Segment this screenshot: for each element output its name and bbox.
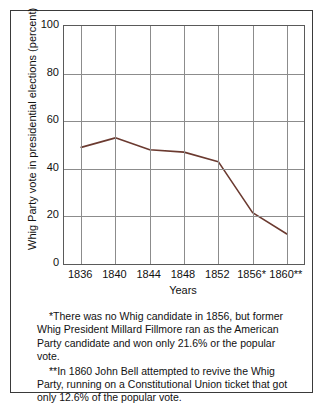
y-tick-label: 40 [25,162,59,173]
gridline-vertical [184,26,185,264]
x-axis-title: Years [63,284,303,296]
footnote-2: **In 1860 John Bell attempted to revive … [37,365,289,405]
figure-frame: Whig Party vote in presidential election… [10,10,313,393]
x-tick-label: 1860** [261,268,311,280]
gridline-vertical [150,26,151,264]
gridline-vertical [287,26,288,264]
gridline-vertical [218,26,219,264]
y-tick-label: 80 [25,67,59,78]
y-tick-label: 100 [25,19,59,30]
y-tick-label: 60 [25,114,59,125]
gridline-vertical [253,26,254,264]
plot-area [63,25,305,265]
y-tick-label: 20 [25,209,59,220]
gridline-vertical [81,26,82,264]
y-axis-ticks: 020406080100 [19,11,59,301]
y-tick-label: 0 [25,257,59,268]
chart-area: Whig Party vote in presidential election… [11,11,314,301]
footnotes: *There was no Whig candidate in 1856, bu… [37,310,289,405]
footnote-1: *There was no Whig candidate in 1856, bu… [37,310,289,364]
gridline-vertical [115,26,116,264]
